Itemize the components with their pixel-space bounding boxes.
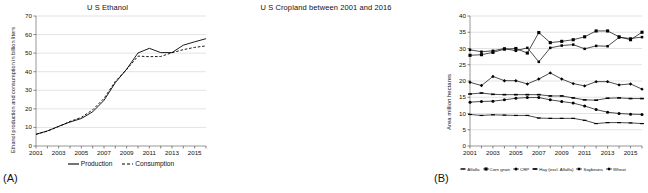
y-tick-label: 0 — [14, 142, 32, 149]
legend-swatch-icon — [576, 166, 582, 172]
legend-item[interactable]: Production — [68, 160, 113, 167]
chart-b-plot-area: 0510152025303540200120032005200720092011… — [470, 16, 642, 146]
y-tick-label: 60 — [14, 31, 32, 38]
panel-a-label: (A) — [3, 172, 18, 184]
x-tick-label: 2011 — [574, 149, 596, 156]
x-tick-label: 2015 — [620, 149, 642, 156]
legend-item[interactable]: Soybeans — [576, 166, 603, 172]
x-tick-label: 2013 — [161, 149, 183, 156]
y-tick-label: 30 — [448, 45, 466, 52]
legend-label: CRP — [520, 167, 529, 172]
legend-item[interactable]: Corn grain — [483, 166, 511, 172]
y-tick-label: 10 — [14, 123, 32, 130]
legend-label: Soybeans — [583, 167, 603, 172]
legend-item[interactable]: Alfalfa — [460, 166, 479, 172]
legend-label: Alfalfa — [467, 167, 479, 172]
y-tick-label: 40 — [14, 68, 32, 75]
chart-b-title: U S Cropland between 2001 and 2016 — [215, 3, 437, 12]
y-tick-label: 20 — [14, 105, 32, 112]
chart-a-plot-area: 0102030405060702001200320052007200920112… — [36, 16, 206, 146]
legend-swatch-icon — [460, 166, 466, 172]
x-tick-label: 2015 — [184, 149, 206, 156]
chart-a-title: U S Ethanol — [0, 3, 215, 12]
panel-a-us-ethanol: U S Ethanol Ethanol production and consu… — [0, 0, 215, 193]
y-tick-label: 30 — [14, 86, 32, 93]
x-tick-label: 2005 — [505, 149, 527, 156]
x-tick-label: 2009 — [116, 149, 138, 156]
y-tick-label: 50 — [14, 49, 32, 56]
y-tick-label: 15 — [448, 93, 466, 100]
chart-a-legend: ProductionConsumption — [36, 160, 206, 167]
legend-swatch-icon — [68, 161, 79, 167]
y-tick-label: 10 — [448, 110, 466, 117]
x-tick-label: 2001 — [25, 149, 47, 156]
y-tick-label: 70 — [14, 12, 32, 19]
legend-item[interactable]: CRP — [513, 166, 529, 172]
legend-label: Consumption — [135, 160, 174, 167]
legend-label: Corn grain — [490, 167, 511, 172]
y-tick-label: 20 — [448, 77, 466, 84]
x-tick-label: 2007 — [528, 149, 550, 156]
legend-swatch-icon — [513, 166, 519, 172]
legend-swatch-icon — [532, 166, 538, 172]
x-tick-label: 2007 — [93, 149, 115, 156]
y-tick-label: 5 — [448, 126, 466, 133]
y-tick-label: 40 — [448, 12, 466, 19]
x-tick-label: 2003 — [48, 149, 70, 156]
legend-item[interactable]: Wheat — [606, 166, 626, 172]
chart-b-legend: AlfalfaCorn grainCRPHay (excl. Alfalfa)S… — [434, 166, 648, 172]
legend-swatch-icon — [606, 166, 612, 172]
legend-label: Production — [81, 160, 113, 167]
legend-label: Hay (excl. Alfalfa) — [539, 167, 573, 172]
legend-item[interactable]: Hay (excl. Alfalfa) — [532, 166, 573, 172]
legend-swatch-icon — [122, 161, 133, 167]
legend-item[interactable]: Consumption — [122, 160, 174, 167]
x-tick-label: 2009 — [551, 149, 573, 156]
legend-label: Wheat — [613, 167, 626, 172]
panel-b-us-cropland: U S Cropland between 2001 and 2016 Area … — [215, 0, 437, 193]
x-tick-label: 2013 — [597, 149, 619, 156]
y-tick-label: 0 — [448, 142, 466, 149]
x-tick-label: 2005 — [70, 149, 92, 156]
x-tick-label: 2001 — [459, 149, 481, 156]
panel-b-label: (B) — [434, 172, 449, 184]
y-tick-label: 25 — [448, 61, 466, 68]
legend-swatch-icon — [483, 166, 489, 172]
x-tick-label: 2011 — [138, 149, 160, 156]
y-tick-label: 35 — [448, 28, 466, 35]
x-tick-label: 2003 — [482, 149, 504, 156]
